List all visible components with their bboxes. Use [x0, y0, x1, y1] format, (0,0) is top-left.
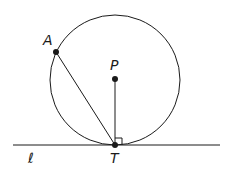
point-a: [53, 49, 59, 55]
point-p: [112, 76, 118, 82]
label-line-l: ℓ: [27, 150, 34, 166]
point-t: [112, 142, 118, 148]
label-t: T: [110, 150, 120, 166]
geometry-diagram: A P T ℓ: [0, 0, 231, 173]
label-a: A: [42, 32, 53, 48]
label-p: P: [110, 57, 119, 73]
chord-at: [56, 52, 115, 145]
